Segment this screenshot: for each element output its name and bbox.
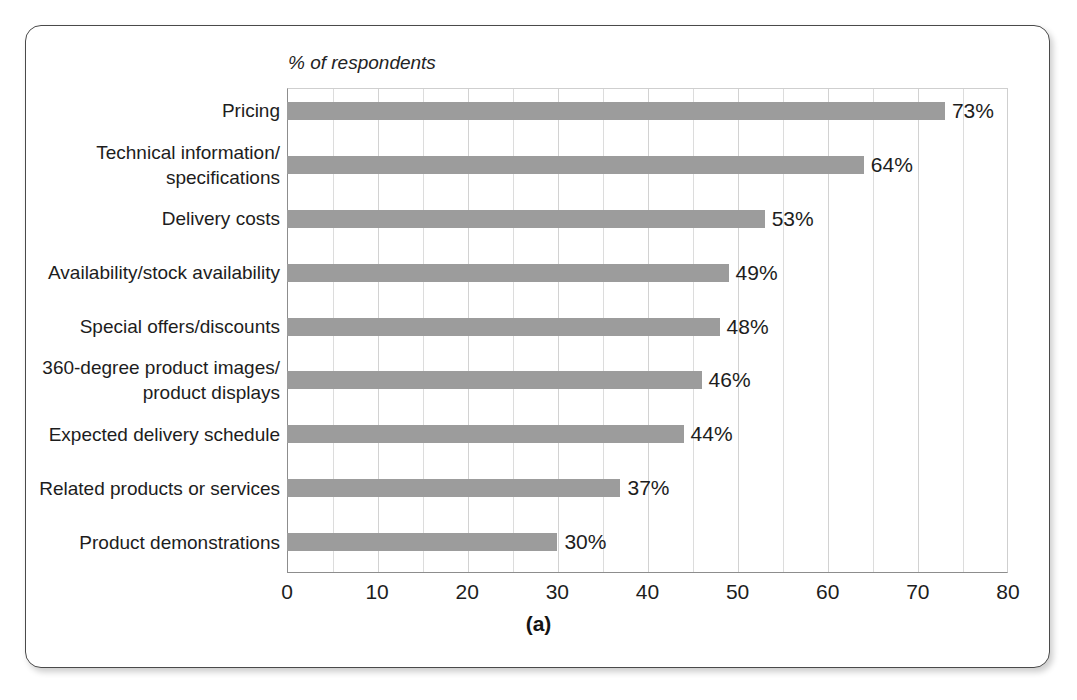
axis-note-label: % of respondents	[288, 52, 436, 74]
bar-value-label: 37%	[627, 475, 669, 501]
x-tick-label: 80	[996, 580, 1019, 604]
bar	[287, 533, 557, 551]
category-label: Pricing	[0, 98, 280, 123]
category-label-line: Expected delivery schedule	[0, 422, 280, 447]
category-label-line: Product demonstrations	[0, 530, 280, 555]
x-tick-label: 70	[906, 580, 929, 604]
bar	[287, 102, 945, 120]
bar	[287, 318, 720, 336]
x-tick-label: 30	[546, 580, 569, 604]
category-label-line: product displays	[0, 380, 280, 405]
x-tick-label: 50	[726, 580, 749, 604]
category-label-line: Technical information/	[0, 140, 280, 165]
gridline	[918, 89, 919, 572]
bar-value-label: 30%	[564, 529, 606, 555]
bar-value-label: 46%	[709, 367, 751, 393]
category-label: Technical information/specifications	[0, 140, 280, 190]
bar	[287, 371, 702, 389]
category-label: Availability/stock availability	[0, 260, 280, 285]
category-label: Related products or services	[0, 476, 280, 501]
category-label-line: Availability/stock availability	[0, 260, 280, 285]
horizontal-bar-chart: % of respondents Pricing73%Technical inf…	[0, 0, 1077, 700]
bar-value-label: 64%	[871, 152, 913, 178]
bar-value-label: 53%	[772, 206, 814, 232]
bar	[287, 479, 620, 497]
bar	[287, 210, 765, 228]
category-label: Product demonstrations	[0, 530, 280, 555]
x-tick-label: 40	[636, 580, 659, 604]
category-label-line: specifications	[0, 165, 280, 190]
x-tick-label: 60	[816, 580, 839, 604]
bar-value-label: 73%	[952, 98, 994, 124]
bar	[287, 264, 729, 282]
bar	[287, 425, 684, 443]
bar-value-label: 48%	[727, 314, 769, 340]
category-label-line: Related products or services	[0, 476, 280, 501]
category-label: Delivery costs	[0, 206, 280, 231]
category-label-line: Pricing	[0, 98, 280, 123]
category-label-line: 360-degree product images/	[0, 355, 280, 380]
x-tick-label: 0	[281, 580, 293, 604]
x-tick-label: 10	[365, 580, 388, 604]
x-tick-label: 20	[456, 580, 479, 604]
figure-caption: (a)	[0, 612, 1077, 636]
category-label: 360-degree product images/product displa…	[0, 355, 280, 405]
bar-value-label: 44%	[691, 421, 733, 447]
bar	[287, 156, 864, 174]
category-label: Expected delivery schedule	[0, 422, 280, 447]
gridline	[963, 89, 964, 572]
category-label-line: Special offers/discounts	[0, 314, 280, 339]
bar-value-label: 49%	[736, 260, 778, 286]
category-label-line: Delivery costs	[0, 206, 280, 231]
category-label: Special offers/discounts	[0, 314, 280, 339]
